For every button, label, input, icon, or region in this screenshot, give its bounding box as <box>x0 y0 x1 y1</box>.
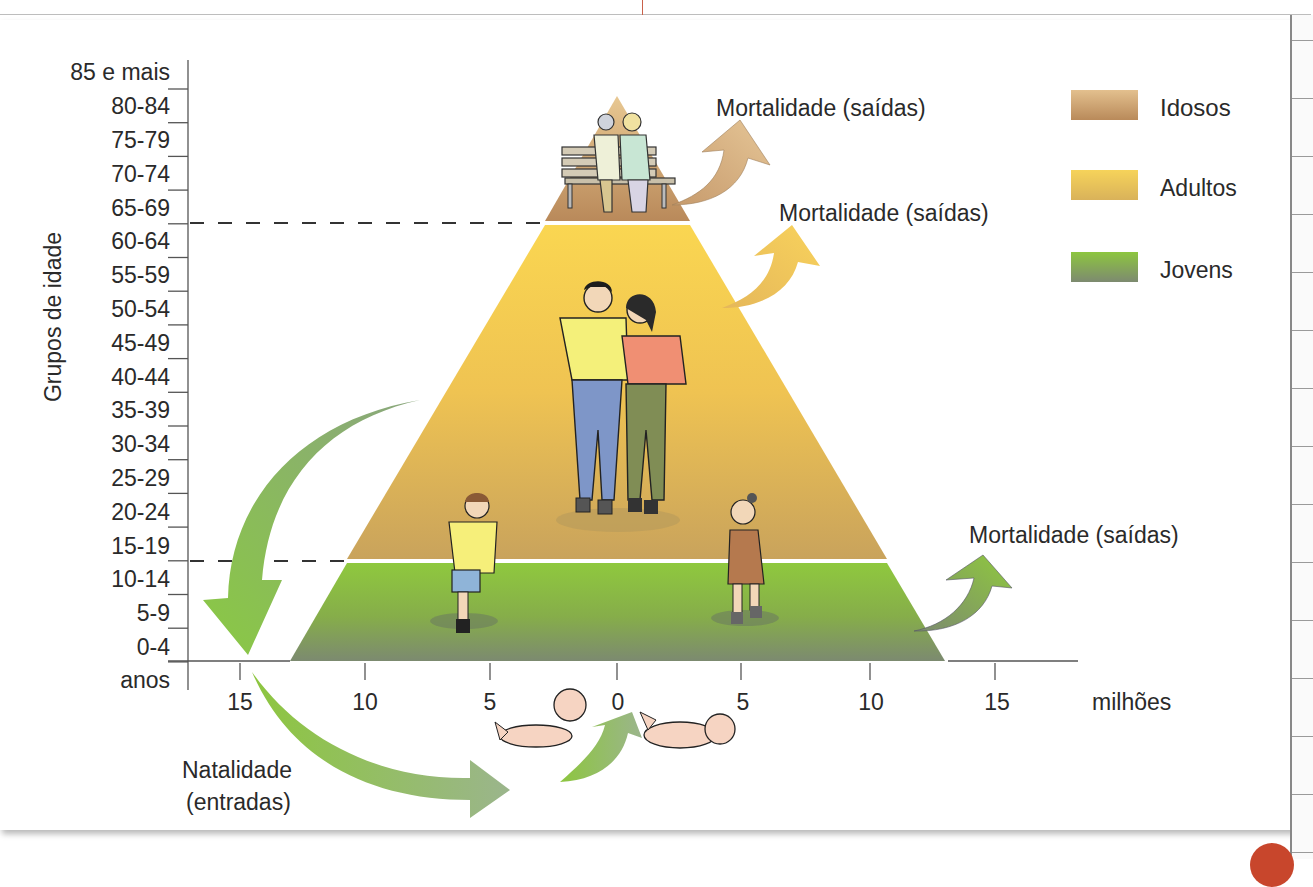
legend-label-idosos: Idosos <box>1160 95 1231 121</box>
x-tick-label: 10 <box>858 689 884 715</box>
age-label: 55-59 <box>111 262 170 288</box>
y-axis <box>168 60 188 690</box>
legend-swatch-idosos <box>1071 90 1138 120</box>
age-label: 85 e mais <box>70 59 170 85</box>
mortality-jovens-label: Mortalidade (saídas) <box>969 522 1179 548</box>
age-label: 20-24 <box>111 499 170 525</box>
age-label: 60-64 <box>111 228 170 254</box>
x-tick-label: 15 <box>227 689 253 715</box>
baby-lying-illustration <box>640 712 735 748</box>
x-tick-label: 5 <box>484 689 497 715</box>
age-label: 5-9 <box>137 600 170 626</box>
x-tick-label: 10 <box>352 689 378 715</box>
natality-label-line1: Natalidade <box>182 757 292 783</box>
age-label: 70-74 <box>111 161 170 187</box>
age-label: 65-69 <box>111 195 170 221</box>
age-label: 75-79 <box>111 127 170 153</box>
legend-swatch-jovens <box>1071 252 1138 282</box>
x-tick-label: 15 <box>984 689 1010 715</box>
natality-label-line2: (entradas) <box>186 789 291 815</box>
age-label: 35-39 <box>111 397 170 423</box>
age-label: 15-19 <box>111 533 170 559</box>
mortality-adultos-label: Mortalidade (saídas) <box>779 200 989 226</box>
age-label: 10-14 <box>111 566 170 592</box>
y-axis-unit-label: anos <box>120 667 170 693</box>
age-label: 0-4 <box>137 634 170 660</box>
legend-label-jovens: Jovens <box>1160 257 1233 283</box>
age-label: 25-29 <box>111 465 170 491</box>
mortality-jovens-arrow-icon <box>914 555 1012 631</box>
y-axis-title: Grupos de idade <box>40 232 67 402</box>
mortality-idosos-label: Mortalidade (saídas) <box>716 95 926 121</box>
legend-label-adultos: Adultos <box>1160 175 1237 201</box>
x-tick-label: 5 <box>737 689 750 715</box>
band-jovens <box>290 563 945 661</box>
age-label: 80-84 <box>111 93 170 119</box>
age-label: 50-54 <box>111 296 170 322</box>
baby-crawling-illustration <box>495 689 586 747</box>
age-label: 30-34 <box>111 431 170 457</box>
x-axis <box>168 661 1078 680</box>
mortality-idosos-arrow-icon <box>672 120 770 205</box>
legend-swatch-adultos <box>1071 170 1138 200</box>
natality-small-arrow-icon <box>560 712 642 782</box>
age-label: 40-44 <box>111 364 170 390</box>
mortality-adultos-arrow-icon <box>722 225 820 308</box>
x-axis-unit-label: milhões <box>1092 689 1171 715</box>
age-label: 45-49 <box>111 330 170 356</box>
x-tick-label: 0 <box>612 689 625 715</box>
